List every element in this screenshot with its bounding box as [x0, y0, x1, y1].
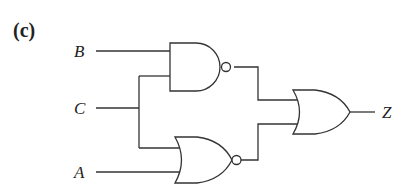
- input-label-a: A: [73, 163, 85, 182]
- input-label-b: B: [74, 42, 85, 61]
- output-label-z: Z: [382, 103, 392, 122]
- nand-inversion-bubble: [222, 63, 231, 72]
- or-gate: [293, 90, 350, 134]
- nor-gate: [175, 137, 241, 183]
- logic-circuit-diagram: (c) B C A Z: [0, 0, 407, 192]
- wire-nand-to-or: [234, 67, 298, 100]
- input-label-c: C: [74, 99, 86, 118]
- panel-label: (c): [13, 19, 35, 42]
- nor-inversion-bubble: [232, 156, 241, 165]
- nand-gate: [170, 43, 231, 91]
- wire-nor-to-or: [241, 124, 298, 160]
